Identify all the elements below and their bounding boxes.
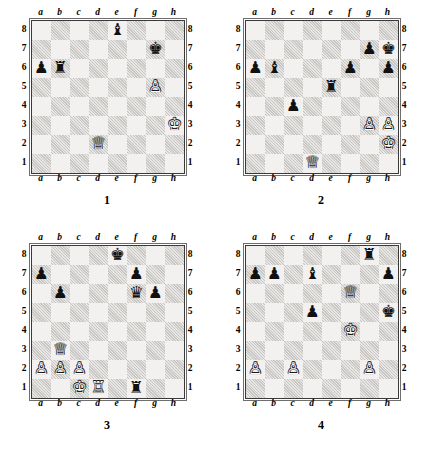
square-d6[interactable] [89,284,108,303]
piece-white-pawn[interactable]: ♙ [53,361,68,378]
piece-black-rook[interactable]: ♜ [362,247,377,264]
piece-white-king[interactable]: ♔ [72,380,87,397]
square-d2[interactable] [303,135,322,154]
square-e5[interactable] [322,303,341,322]
square-b3[interactable] [265,341,284,360]
square-b8[interactable] [51,21,70,40]
square-g5[interactable] [360,78,379,97]
square-c3[interactable] [284,341,303,360]
piece-black-pawn[interactable]: ♟ [267,266,282,283]
piece-black-king[interactable]: ♚ [381,41,396,58]
chessboard[interactable]: ♝♚♟♜♙♔♕ [31,20,185,174]
square-b7[interactable] [51,40,70,59]
square-h6[interactable] [165,284,184,303]
square-c1[interactable]: ♔ [70,379,89,398]
square-e6[interactable] [322,59,341,78]
square-a6[interactable]: ♟ [246,59,265,78]
square-f1[interactable] [341,154,360,173]
square-b6[interactable]: ♟ [51,284,70,303]
chessboard[interactable]: ♚♟♟♟♛♟♕♙♙♙♔♖♜ [31,245,185,399]
square-d2[interactable] [89,360,108,379]
square-d6[interactable] [303,284,322,303]
square-d7[interactable] [89,40,108,59]
square-h7[interactable] [165,265,184,284]
square-e6[interactable] [108,59,127,78]
square-d8[interactable] [89,246,108,265]
square-a3[interactable] [246,116,265,135]
square-f3[interactable] [127,341,146,360]
square-b5[interactable] [51,303,70,322]
square-d1[interactable] [303,379,322,398]
square-h3[interactable] [379,341,398,360]
square-g8[interactable] [146,21,165,40]
square-d2[interactable]: ♕ [89,135,108,154]
square-h6[interactable] [165,59,184,78]
square-c5[interactable] [70,78,89,97]
square-d4[interactable] [303,322,322,341]
chessboard[interactable]: ♜♟♟♝♟♕♟♚♔♙♙♙ [245,245,399,399]
square-g7[interactable] [146,265,165,284]
piece-black-king[interactable]: ♚ [381,304,396,321]
square-h4[interactable] [379,97,398,116]
square-h5[interactable] [165,78,184,97]
square-b8[interactable] [265,21,284,40]
square-a5[interactable] [246,303,265,322]
square-f3[interactable] [127,116,146,135]
square-d6[interactable] [89,59,108,78]
square-c8[interactable] [70,246,89,265]
square-g1[interactable] [360,379,379,398]
square-d7[interactable] [303,40,322,59]
square-f2[interactable] [341,360,360,379]
square-c7[interactable] [70,40,89,59]
square-f8[interactable] [127,246,146,265]
square-e7[interactable] [108,40,127,59]
square-b7[interactable] [265,40,284,59]
square-c1[interactable] [284,379,303,398]
square-e3[interactable] [322,116,341,135]
piece-white-pawn[interactable]: ♙ [362,361,377,378]
square-e3[interactable] [108,116,127,135]
square-g2[interactable]: ♙ [360,360,379,379]
square-f7[interactable] [127,40,146,59]
piece-white-pawn[interactable]: ♙ [381,117,396,134]
square-a7[interactable] [32,40,51,59]
square-h7[interactable] [165,40,184,59]
square-g4[interactable] [146,97,165,116]
piece-white-rook[interactable]: ♖ [91,380,106,397]
square-d1[interactable]: ♖ [89,379,108,398]
square-b7[interactable] [51,265,70,284]
square-f7[interactable]: ♟ [127,265,146,284]
square-h8[interactable] [165,21,184,40]
square-a3[interactable] [32,116,51,135]
square-c2[interactable]: ♙ [284,360,303,379]
square-h2[interactable] [379,360,398,379]
square-g7[interactable]: ♟ [360,40,379,59]
square-h6[interactable]: ♟ [379,59,398,78]
square-c6[interactable] [70,284,89,303]
square-h3[interactable] [165,341,184,360]
square-h7[interactable]: ♟ [379,265,398,284]
square-a3[interactable] [246,341,265,360]
square-c4[interactable] [70,97,89,116]
square-h7[interactable]: ♚ [379,40,398,59]
piece-white-king[interactable]: ♔ [381,136,396,153]
piece-black-pawn[interactable]: ♟ [305,304,320,321]
square-f2[interactable] [127,360,146,379]
square-a8[interactable] [246,21,265,40]
square-g4[interactable] [146,322,165,341]
square-f5[interactable] [127,78,146,97]
square-g8[interactable] [360,21,379,40]
square-f3[interactable] [341,116,360,135]
square-h5[interactable] [165,303,184,322]
square-b1[interactable] [51,379,70,398]
square-a6[interactable] [246,284,265,303]
square-b4[interactable] [51,322,70,341]
square-c6[interactable] [70,59,89,78]
square-d2[interactable] [303,360,322,379]
square-g5[interactable] [146,303,165,322]
square-f8[interactable] [341,21,360,40]
piece-white-pawn[interactable]: ♙ [34,361,49,378]
square-a7[interactable] [246,40,265,59]
square-g2[interactable] [360,135,379,154]
square-a7[interactable]: ♟ [246,265,265,284]
